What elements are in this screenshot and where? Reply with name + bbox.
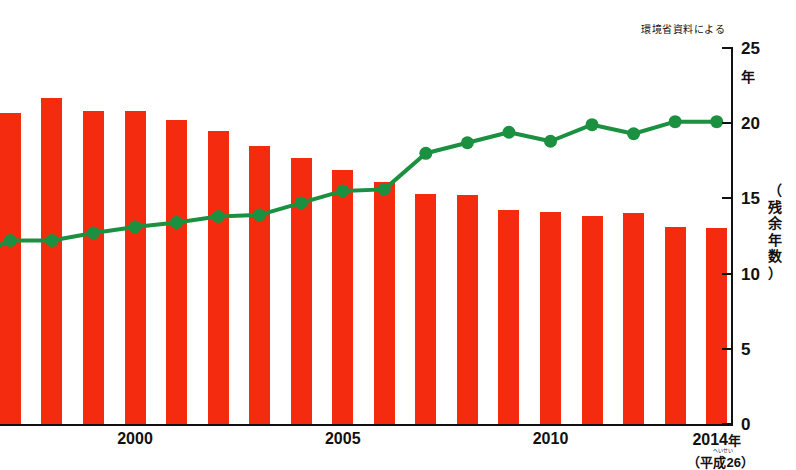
line-series — [0, 40, 731, 424]
y-tick-mark — [722, 273, 733, 275]
line-marker — [45, 234, 58, 247]
y-axis-unit: 年 — [741, 66, 755, 86]
chart-root: 環境省資料による 0510152025 年 （ 残 余 年 数 ） 200020… — [0, 0, 796, 470]
x-tick-label: 2000 — [117, 430, 153, 448]
line-marker — [87, 226, 100, 239]
line-marker — [4, 234, 17, 247]
y-axis-title-char: 余 — [762, 215, 788, 232]
source-note: 環境省資料による — [641, 21, 725, 36]
line-marker — [129, 220, 142, 233]
line-marker — [212, 210, 225, 223]
y-tick-label: 10 — [741, 266, 760, 283]
y-tick-mark — [722, 348, 733, 350]
line-marker — [669, 115, 682, 128]
y-tick-label: 25 — [741, 40, 760, 57]
line-path — [0, 122, 717, 259]
y-axis-title-char: ） — [762, 265, 788, 282]
y-tick-mark — [722, 122, 733, 124]
x-tick-label: 2005 — [325, 430, 361, 448]
x-tick-sublabel-ruby: へいせい — [713, 446, 733, 453]
line-marker — [170, 216, 183, 229]
plot-area — [0, 40, 731, 424]
line-marker — [627, 127, 640, 140]
line-marker — [586, 118, 599, 131]
y-tick-label: 20 — [741, 115, 760, 132]
y-tick-mark — [722, 197, 733, 199]
y-axis-title-char: （ — [762, 182, 788, 199]
line-marker — [295, 196, 308, 209]
y-axis-line — [731, 48, 733, 425]
y-axis-title: （ 残 余 年 数 ） — [762, 182, 788, 281]
y-tick-label: 15 — [741, 190, 760, 207]
line-marker — [502, 126, 515, 139]
y-axis-title-char: 年 — [762, 232, 788, 249]
line-marker — [378, 183, 391, 196]
line-marker — [544, 135, 557, 148]
line-marker — [253, 208, 266, 221]
x-tick-label: 2010 — [533, 430, 569, 448]
y-tick-label: 0 — [741, 416, 750, 433]
line-marker — [461, 136, 474, 149]
line-marker — [336, 184, 349, 197]
y-tick-label: 5 — [741, 341, 750, 358]
y-axis-title-char: 数 — [762, 248, 788, 265]
y-tick-mark — [722, 47, 733, 49]
y-axis-title-char: 残 — [762, 199, 788, 216]
x-axis-line — [0, 424, 733, 426]
x-tick-sublabel: （平成26） — [687, 452, 753, 470]
line-marker — [419, 147, 432, 160]
